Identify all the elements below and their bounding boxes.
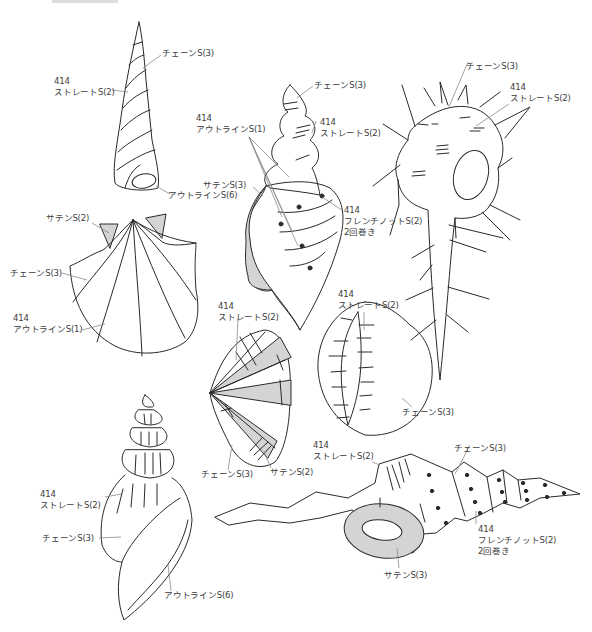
tower-shell-drawing [114,22,158,190]
thread-number: 414 [196,113,265,124]
auger-french-knot-label: 414 フレンチノットS(2) 2回巻き [478,524,556,557]
thread-number: 414 [320,117,381,128]
thread-number: 414 [13,313,82,324]
stitch-name: ストレートS(2) [313,451,374,462]
scallop-satin-label: サテンS(2) [46,213,89,224]
scallop-outline-label: 414 アウトラインS(1) [13,313,82,335]
stitch-name: アウトラインS(1) [196,124,265,135]
conch-straight-label: 414 ストレートS(2) [320,117,381,139]
stitch-note: 2回巻き [344,227,422,238]
conch-french-knot-label: 414 フレンチノットS(2) 2回巻き [344,205,422,238]
stitch-name: ストレートS(2) [40,500,101,511]
thread-number: 414 [218,301,279,312]
murex-straight-label: 414 ストレートS(2) [510,82,571,104]
thread-number: 414 [40,489,101,500]
murex-chain-label: チェーンS(3) [466,61,518,72]
tower-straight-label: 414 ストレートS(2) [54,76,115,98]
thread-number: 414 [313,440,374,451]
whelk-straight-label: 414 ストレートS(2) [40,489,101,511]
fan-shell-drawing [210,330,291,467]
auger-chain-label: チェーンS(3) [454,443,506,454]
conch-satin-label: サテンS(3) [203,180,246,191]
leader-lines [62,55,509,591]
conch-outline-label: 414 アウトラインS(1) [196,113,265,135]
scallop-chain-label: チェーンS(3) [10,268,62,279]
thread-number: 414 [54,76,115,87]
scallop-shell-drawing [70,214,198,356]
stitch-name: ストレートS(2) [320,128,381,139]
stitch-name: フレンチノットS(2) [478,535,556,546]
stitch-name: アウトラインS(1) [13,324,82,335]
conch-chain-label: チェーンS(3) [314,80,366,91]
whelk-outline-label: アウトラインS(6) [164,590,233,601]
fan-satin-label: サテンS(2) [270,467,313,478]
stitch-name: フレンチノットS(2) [344,216,422,227]
cowrie-straight-label: 414 ストレートS(2) [338,289,399,311]
whelk-shell-drawing [101,395,192,620]
stitch-note: 2回巻き [478,546,556,557]
thread-number: 414 [338,289,399,300]
fan-chain-label: チェーンS(3) [201,469,253,480]
stitch-name: ストレートS(2) [510,93,571,104]
stitch-name: ストレートS(2) [54,87,115,98]
whelk-chain-label: チェーンS(3) [42,533,94,544]
tower-chain-label: チェーンS(3) [162,48,214,59]
thread-number: 414 [510,82,571,93]
stitch-name: ストレートS(2) [218,312,279,323]
auger-satin-label: サテンS(3) [384,570,427,581]
stitch-name: ストレートS(2) [338,300,399,311]
cropped-header-strip [52,0,118,3]
thread-number: 414 [478,524,556,535]
thread-number: 414 [344,205,422,216]
fan-straight-label: 414 ストレートS(2) [218,301,279,323]
tower-outline-label: アウトラインS(6) [168,190,237,201]
cowrie-chain-label: チェーンS(3) [402,407,454,418]
auger-straight-label: 414 ストレートS(2) [313,440,374,462]
